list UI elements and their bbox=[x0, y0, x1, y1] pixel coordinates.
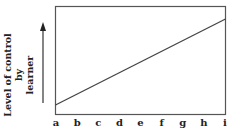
x-tick-f: f bbox=[156, 117, 168, 128]
trend-line bbox=[56, 19, 226, 105]
x-tick-b: b bbox=[71, 117, 83, 128]
x-tick-e: e bbox=[135, 117, 147, 128]
plot-frame bbox=[56, 7, 226, 115]
x-tick-h: h bbox=[198, 117, 210, 128]
x-tick-a: a bbox=[50, 117, 62, 128]
x-tick-g: g bbox=[177, 117, 189, 128]
y-axis-arrow bbox=[40, 22, 46, 103]
x-tick-c: c bbox=[92, 117, 104, 128]
x-tick-d: d bbox=[113, 117, 125, 128]
x-tick-i: i bbox=[219, 117, 231, 128]
chart-area bbox=[0, 0, 237, 135]
